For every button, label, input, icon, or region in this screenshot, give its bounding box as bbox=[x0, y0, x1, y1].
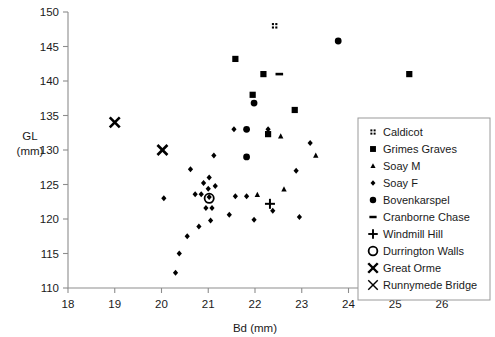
marker-small-diamond bbox=[308, 140, 313, 146]
legend-label: Cranborne Chase bbox=[383, 211, 470, 223]
y-tick-label: 120 bbox=[40, 213, 59, 225]
marker-small-diamond bbox=[211, 153, 216, 159]
legend-label: Caldicot bbox=[383, 126, 423, 138]
series-great-orme bbox=[110, 117, 168, 155]
series-windmill-hill bbox=[265, 199, 275, 209]
legend-label: Windmill Hill bbox=[383, 228, 443, 240]
marker-bold-x bbox=[110, 117, 120, 127]
marker-filled-square bbox=[232, 56, 238, 62]
scatter-chart: 1101151201251301351401451501819202122232… bbox=[0, 0, 495, 337]
y-tick-label: 135 bbox=[40, 110, 59, 122]
marker-small-triangle bbox=[313, 153, 318, 158]
marker-small-diamond bbox=[251, 217, 256, 223]
marker-filled-square bbox=[370, 146, 376, 152]
legend-item-cranborne-chase: Cranborne Chase bbox=[369, 211, 469, 223]
legend: CaldicotGrimes GravesSoay MSoay FBovenka… bbox=[358, 118, 490, 300]
x-axis-title: Bd (mm) bbox=[233, 322, 277, 334]
marker-filled-square bbox=[406, 71, 412, 77]
legend-label: Grimes Graves bbox=[383, 143, 457, 155]
marker-small-diamond bbox=[206, 186, 211, 192]
marker-filled-square bbox=[260, 71, 266, 77]
marker-filled-circle bbox=[370, 197, 376, 203]
marker-small-diamond bbox=[185, 233, 190, 239]
marker-small-triangle bbox=[281, 186, 286, 191]
legend-label: Soay M bbox=[383, 160, 420, 172]
legend-item-durrington-walls: Durrington Walls bbox=[369, 245, 465, 257]
marker-small-diamond bbox=[196, 224, 201, 230]
marker-small-diamond bbox=[297, 214, 302, 220]
marker-four-squares bbox=[272, 23, 278, 29]
marker-small-diamond bbox=[161, 195, 166, 201]
marker-filled-circle bbox=[335, 38, 342, 45]
marker-small-diamond bbox=[199, 191, 204, 197]
series-caldicot bbox=[272, 23, 278, 29]
legend-label: Bovenkarspel bbox=[383, 194, 450, 206]
marker-small-diamond bbox=[233, 193, 238, 199]
y-axis-title-line1: GL bbox=[22, 130, 38, 142]
y-tick-label: 125 bbox=[40, 179, 59, 191]
legend-item-grimes-graves: Grimes Graves bbox=[370, 143, 457, 155]
x-tick-label: 24 bbox=[342, 298, 355, 310]
marker-small-diamond bbox=[207, 175, 212, 181]
legend-label: Great Orme bbox=[383, 262, 441, 274]
series-soay-f bbox=[161, 126, 313, 276]
x-tick-label: 22 bbox=[249, 298, 262, 310]
marker-small-diamond bbox=[231, 126, 236, 132]
legend-label: Durrington Walls bbox=[383, 245, 464, 257]
y-tick-label: 115 bbox=[41, 248, 59, 260]
marker-small-diamond bbox=[294, 168, 299, 174]
x-tick-label: 19 bbox=[108, 298, 121, 310]
x-tick-label: 20 bbox=[155, 298, 168, 310]
legend-label: Soay F bbox=[383, 177, 418, 189]
marker-small-diamond bbox=[213, 183, 218, 189]
x-tick-label: 18 bbox=[62, 298, 75, 310]
series-bovenkarspel bbox=[243, 38, 341, 161]
marker-small-diamond bbox=[209, 205, 214, 211]
marker-filled-circle bbox=[243, 154, 250, 161]
y-tick-label: 140 bbox=[40, 75, 59, 87]
x-tick-label: 21 bbox=[202, 298, 215, 310]
y-tick-label: 150 bbox=[40, 6, 59, 18]
marker-bold-x bbox=[157, 145, 167, 155]
marker-small-diamond bbox=[193, 191, 198, 197]
legend-label: Runnymede Bridge bbox=[383, 279, 477, 291]
legend-item-runnymede-bridge: Runnymede Bridge bbox=[368, 279, 477, 291]
x-tick-label: 23 bbox=[295, 298, 308, 310]
y-tick-label: 145 bbox=[40, 41, 59, 53]
plot-canvas: 1101151201251301351401451501819202122232… bbox=[0, 0, 495, 337]
marker-small-diamond bbox=[201, 180, 206, 186]
marker-small-diamond bbox=[173, 270, 178, 276]
marker-filled-square bbox=[250, 92, 256, 98]
marker-small-diamond bbox=[227, 212, 232, 218]
y-tick-label: 110 bbox=[41, 282, 59, 294]
marker-filled-square bbox=[292, 107, 298, 113]
marker-small-diamond bbox=[177, 251, 182, 257]
marker-filled-circle bbox=[251, 100, 258, 107]
marker-filled-circle bbox=[243, 126, 250, 133]
marker-small-diamond bbox=[188, 166, 193, 172]
marker-small-diamond bbox=[208, 217, 213, 223]
marker-small-triangle bbox=[255, 192, 260, 197]
marker-small-diamond bbox=[244, 193, 249, 199]
y-axis-title-line2: (mm) bbox=[17, 145, 44, 157]
marker-small-triangle bbox=[278, 133, 283, 138]
marker-small-diamond bbox=[203, 205, 208, 211]
marker-plus bbox=[265, 199, 275, 209]
